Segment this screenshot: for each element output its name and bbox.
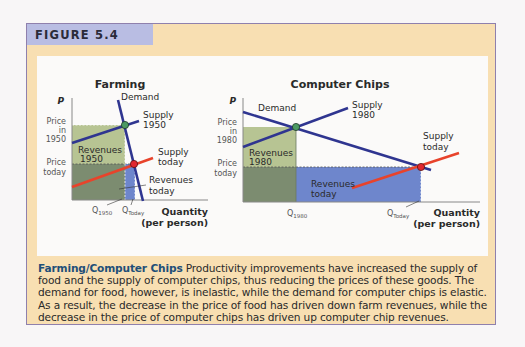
eq-1980-point — [292, 123, 299, 130]
price-1980-tick-3: 1980 — [217, 136, 237, 145]
chips-qty-label-1: Quantity — [433, 207, 480, 218]
rev-today-label-2: today — [149, 186, 175, 196]
price-1980-tick-2: in — [230, 127, 237, 136]
price-today-tick-2: today — [43, 168, 66, 177]
q-today-tick: QToday — [122, 206, 145, 217]
chips-q-today-tick: QToday — [387, 209, 410, 220]
farming-qty-label-2: (per person) — [141, 217, 208, 228]
supply-today-label-2: today — [158, 157, 184, 167]
price-1950-tick-3: 1950 — [46, 135, 66, 144]
chips-title: Computer Chips — [291, 78, 390, 91]
supply-today-label-1: Supply — [158, 147, 189, 157]
chips-demand-label: Demand — [258, 103, 296, 113]
chips-price-today-tick-2: today — [214, 169, 237, 178]
chips-eq-today-point — [417, 163, 424, 170]
rev-today-label-1: Revenues — [149, 175, 193, 185]
farming-demand-label: Demand — [121, 92, 159, 102]
supply-1950-label-1: Supply — [143, 110, 174, 120]
chips-supply-today-label-1: Supply — [423, 131, 454, 141]
chips-qty-label-2: (per person) — [413, 218, 480, 229]
price-today-tick-1: Price — [46, 158, 66, 167]
chips-rev-today-label-1: Revenues — [311, 179, 355, 189]
eq-today-point — [130, 160, 137, 167]
q-1980-tick: Q1980 — [287, 209, 308, 219]
chips-rev-today-label-2: today — [311, 189, 337, 199]
price-1950-tick-2: in — [59, 126, 66, 135]
eq-1950-point — [121, 121, 128, 128]
chips-revenues-overlap-area — [243, 167, 296, 202]
chips-p-label: P — [229, 96, 236, 106]
chips-price-today-tick-1: Price — [217, 159, 237, 168]
supply-1950-label-2: 1950 — [143, 120, 166, 130]
rev-1980-label-2: 1980 — [249, 157, 272, 167]
farming-title: Farming — [95, 78, 146, 91]
charts-svg: Farming P Demand Supply 1950 Supply toda… — [0, 0, 525, 347]
rev-1950-label-2: 1950 — [80, 154, 103, 164]
revenues-overlap-area — [72, 164, 125, 200]
revenues-today-area — [125, 164, 135, 200]
price-1980-tick-1: Price — [217, 118, 237, 127]
chips-chart: Computer Chips P Demand Supply 1980 Supp… — [214, 78, 481, 229]
supply-1980-label-1: Supply — [352, 100, 383, 110]
q-1950-tick: Q1950 — [92, 206, 113, 216]
farming-chart: Farming P Demand Supply 1950 Supply toda… — [43, 78, 209, 228]
supply-1980-label-2: 1980 — [352, 110, 375, 120]
farming-p-label: P — [57, 96, 64, 106]
farming-qty-label-1: Quantity — [161, 206, 208, 217]
price-1950-tick-1: Price — [46, 117, 66, 126]
chips-supply-today-label-2: today — [423, 142, 449, 152]
